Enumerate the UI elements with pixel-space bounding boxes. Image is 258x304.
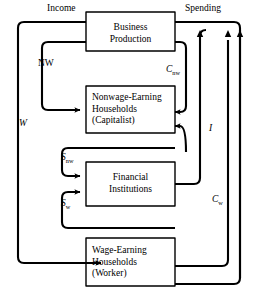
flow-i-hook [175,126,186,152]
flow-label-s-nw: Snw [61,152,73,164]
flow-label-spending: Spending [185,3,221,13]
flow-label-c-w-sub: w [218,199,223,206]
box-wage-households-label: Wage-Earning Households (Worker) [92,245,178,280]
flow-label-s-w: Sw [61,198,70,210]
flow-label-s-nw-sub: nw [66,157,74,164]
flow-i [175,30,206,184]
box-business-production-label: Business Production [96,22,165,45]
flow-label-c-nw: Cnw [166,64,180,76]
flow-label-c-w: Cw [212,194,223,206]
arrowhead-cw-up [225,30,231,37]
arrowhead-spending-up [237,30,243,37]
box-financial-institutions-label: Financial Institutions [92,172,169,195]
flow-label-c-nw-sub: nw [172,69,180,76]
flow-label-income: Income [47,3,76,13]
circular-flow-diagram: Business Production Nonwage-Earning Hous… [0,0,258,304]
flow-label-s-w-sub: w [66,203,71,210]
flow-label-w: W [19,118,27,128]
flow-spending-outer [175,22,240,284]
flow-income-w [18,22,101,263]
box-nonwage-households-label: Nonwage-Earning Households (Capitalist) [92,92,178,127]
flow-c-w-hook [175,40,228,266]
flow-label-nw: NW [38,58,54,68]
flow-label-i: I [209,123,212,133]
flow-nw [42,42,86,110]
